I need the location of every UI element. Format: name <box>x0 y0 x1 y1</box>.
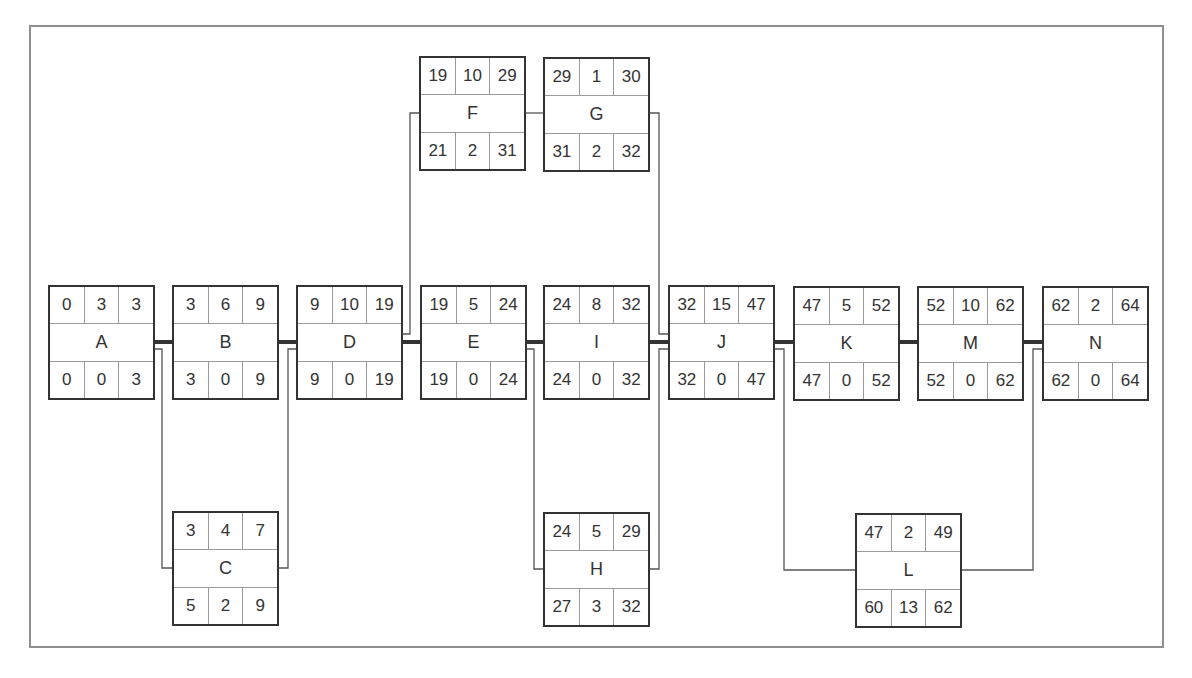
late-finish: 9 <box>242 588 277 624</box>
duration: 1 <box>579 59 614 95</box>
early-start: 19 <box>421 58 455 94</box>
late-start: 32 <box>670 362 704 398</box>
node-m: 52 10 62 M 52 0 62 <box>917 286 1024 401</box>
late-start: 62 <box>1044 363 1078 399</box>
total-float: 2 <box>579 134 614 170</box>
node-b: 3 6 9 B 3 0 9 <box>172 285 279 400</box>
late-finish: 31 <box>489 133 524 169</box>
early-finish: 32 <box>613 287 648 323</box>
activity-label: D <box>298 323 401 361</box>
activity-label: C <box>174 549 277 587</box>
late-start: 31 <box>545 134 579 170</box>
duration: 8 <box>579 287 614 323</box>
duration: 5 <box>829 288 864 324</box>
early-start: 32 <box>670 287 704 323</box>
early-finish: 52 <box>863 288 898 324</box>
early-finish: 29 <box>613 514 648 550</box>
total-float: 13 <box>891 590 926 626</box>
duration: 2 <box>891 515 926 551</box>
total-float: 0 <box>953 363 988 399</box>
duration: 6 <box>208 287 243 323</box>
total-float: 3 <box>579 589 614 625</box>
early-finish: 3 <box>118 287 153 323</box>
late-start: 27 <box>545 589 579 625</box>
node-c: 3 4 7 C 5 2 9 <box>172 511 279 626</box>
duration: 10 <box>332 287 367 323</box>
duration: 5 <box>456 287 491 323</box>
late-finish: 32 <box>613 362 648 398</box>
late-finish: 52 <box>863 363 898 399</box>
late-start: 60 <box>857 590 891 626</box>
early-start: 62 <box>1044 288 1078 324</box>
early-start: 3 <box>174 287 208 323</box>
early-start: 47 <box>857 515 891 551</box>
node-l: 47 2 49 L 60 13 62 <box>855 513 962 628</box>
late-finish: 32 <box>613 134 648 170</box>
activity-label: N <box>1044 324 1147 362</box>
early-finish: 24 <box>490 287 525 323</box>
total-float: 0 <box>456 362 491 398</box>
node-i: 24 8 32 I 24 0 32 <box>543 285 650 400</box>
early-start: 3 <box>174 513 208 549</box>
node-d: 9 10 19 D 9 0 19 <box>296 285 403 400</box>
activity-label: A <box>50 323 153 361</box>
activity-label: F <box>421 94 524 132</box>
late-finish: 62 <box>925 590 960 626</box>
late-start: 47 <box>795 363 829 399</box>
late-finish: 64 <box>1112 363 1147 399</box>
early-start: 19 <box>422 287 456 323</box>
activity-label: M <box>919 324 1022 362</box>
late-start: 52 <box>919 363 953 399</box>
duration: 10 <box>455 58 490 94</box>
total-float: 0 <box>704 362 739 398</box>
early-start: 29 <box>545 59 579 95</box>
late-finish: 9 <box>242 362 277 398</box>
late-finish: 32 <box>613 589 648 625</box>
duration: 15 <box>704 287 739 323</box>
activity-label: I <box>545 323 648 361</box>
total-float: 2 <box>208 588 243 624</box>
activity-label: J <box>670 323 773 361</box>
total-float: 0 <box>1078 363 1113 399</box>
late-finish: 47 <box>738 362 773 398</box>
activity-label: K <box>795 324 898 362</box>
node-k: 47 5 52 K 47 0 52 <box>793 286 900 401</box>
total-float: 0 <box>208 362 243 398</box>
node-g: 29 1 30 G 31 2 32 <box>543 57 650 172</box>
early-finish: 30 <box>613 59 648 95</box>
node-j: 32 15 47 J 32 0 47 <box>668 285 775 400</box>
early-start: 24 <box>545 514 579 550</box>
node-h: 24 5 29 H 27 3 32 <box>543 512 650 627</box>
early-finish: 7 <box>242 513 277 549</box>
node-e: 19 5 24 E 19 0 24 <box>420 285 527 400</box>
early-finish: 47 <box>738 287 773 323</box>
duration: 5 <box>579 514 614 550</box>
early-finish: 64 <box>1112 288 1147 324</box>
late-finish: 62 <box>987 363 1022 399</box>
activity-label: E <box>422 323 525 361</box>
activity-label: G <box>545 95 648 133</box>
duration: 3 <box>84 287 119 323</box>
early-finish: 29 <box>489 58 524 94</box>
activity-label: B <box>174 323 277 361</box>
total-float: 0 <box>829 363 864 399</box>
late-start: 3 <box>174 362 208 398</box>
early-start: 47 <box>795 288 829 324</box>
late-start: 5 <box>174 588 208 624</box>
early-start: 9 <box>298 287 332 323</box>
total-float: 0 <box>332 362 367 398</box>
late-start: 21 <box>421 133 455 169</box>
early-start: 24 <box>545 287 579 323</box>
total-float: 2 <box>455 133 490 169</box>
duration: 2 <box>1078 288 1113 324</box>
node-f: 19 10 29 F 21 2 31 <box>419 56 526 171</box>
duration: 4 <box>208 513 243 549</box>
early-finish: 62 <box>987 288 1022 324</box>
early-finish: 49 <box>925 515 960 551</box>
late-start: 0 <box>50 362 84 398</box>
late-start: 24 <box>545 362 579 398</box>
activity-label: L <box>857 551 960 589</box>
duration: 10 <box>953 288 988 324</box>
node-n: 62 2 64 N 62 0 64 <box>1042 286 1149 401</box>
activity-label: H <box>545 550 648 588</box>
